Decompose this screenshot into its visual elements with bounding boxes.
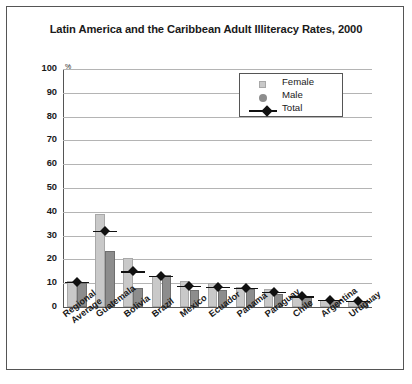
y-tick-80: 80 [13,111,57,121]
chart-frame: Latin America and the Caribbean Adult Il… [6,6,404,370]
gridline-40 [63,212,372,213]
y-tick-90: 90 [13,87,57,97]
legend-label-female: Female [282,76,314,87]
legend-circle-icon [259,94,267,102]
gridline-60 [63,164,372,165]
gridline-100 [63,69,372,70]
y-tick-50: 50 [13,182,57,192]
y-tick-10: 10 [13,277,57,287]
y-tick-40: 40 [13,206,57,216]
y-tick-60: 60 [13,158,57,168]
legend-square-icon [259,81,266,88]
chart-title: Latin America and the Caribbean Adult Il… [7,23,405,35]
gridline-30 [63,236,372,237]
y-tick-20: 20 [13,253,57,263]
chart-legend: Female Male Total [239,73,343,117]
y-tick-0: 0 [13,301,57,311]
chart-figure: Latin America and the Caribbean Adult Il… [0,0,412,384]
y-tick-70: 70 [13,134,57,144]
legend-label-total: Total [282,102,302,113]
legend-item-total: Total [240,103,344,116]
gridline-70 [63,140,372,141]
legend-label-male: Male [282,89,303,100]
legend-diamond-icon [261,105,272,116]
gridline-50 [63,188,372,189]
y-tick-100: 100 [13,63,57,73]
y-tick-30: 30 [13,230,57,240]
